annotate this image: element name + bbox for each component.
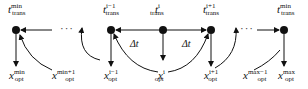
label-t-trans-max: tmintrans — [277, 4, 295, 15]
node-t-i-plus-1 — [207, 26, 215, 34]
label-t-trans-min: tmintrans — [8, 4, 26, 15]
delta-t-right: Δt — [182, 38, 191, 49]
label-t-trans-i-plus-1: ti+1trans — [203, 4, 219, 15]
label-x-opt-i: xiopt — [158, 70, 164, 81]
label-x-opt-min: xminopt — [9, 70, 24, 81]
node-t-max — [280, 26, 288, 34]
node-t-min — [12, 26, 20, 34]
label-x-opt-i-minus-1: xi−1opt — [104, 70, 117, 81]
label-t-trans-i: titrans — [155, 4, 164, 15]
label-x-opt-max: xmaxopt — [278, 70, 294, 81]
ellipsis-right: ··· — [240, 22, 254, 34]
node-t-i — [159, 26, 167, 34]
label-x-opt-i-plus-1: xi+1opt — [204, 70, 217, 81]
node-t-i-minus-1 — [107, 26, 115, 34]
label-x-opt-min-plus-1: xmin+1opt — [52, 70, 74, 81]
ellipsis-left: ··· — [60, 22, 74, 34]
label-x-opt-max-minus-1: xmax−1opt — [243, 70, 266, 81]
label-t-trans-i-minus-1: ti−1trans — [103, 4, 119, 15]
delta-t-left: Δt — [130, 38, 139, 49]
